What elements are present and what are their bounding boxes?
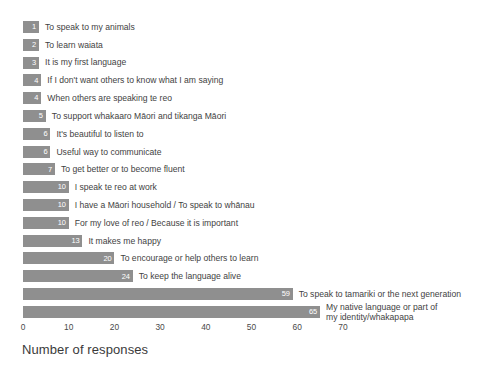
bar-value-label: 4 <box>34 77 38 85</box>
bar-row: 65My native language or part of my ident… <box>23 303 481 321</box>
bar-row: 24To keep the language alive <box>23 267 481 285</box>
x-axis-title: Number of responses <box>22 342 148 357</box>
x-axis-tick: 40 <box>201 322 210 332</box>
bar-row: 2To learn waiata <box>23 36 481 54</box>
bar-category-label: It is my first language <box>45 57 126 67</box>
bar-row: 20To encourage or help others to learn <box>23 250 481 268</box>
bar-value-label: 24 <box>122 273 130 281</box>
bar-row: 4When others are speaking te reo <box>23 89 481 107</box>
bar-row: 3It is my first language <box>23 54 481 72</box>
bar-category-label: To support whakaaro Māori and tikanga Mā… <box>52 111 226 121</box>
bar: 10 <box>23 199 69 211</box>
bar-value-label: 13 <box>71 237 79 245</box>
bar-value-label: 3 <box>32 59 36 67</box>
bar: 10 <box>23 217 69 229</box>
bar-value-label: 10 <box>58 183 66 191</box>
bar-value-label: 5 <box>39 112 43 120</box>
bar: 5 <box>23 110 46 122</box>
bar-row: 10I speak te reo at work <box>23 178 481 196</box>
x-axis-tick: 30 <box>155 322 164 332</box>
bar-value-label: 2 <box>32 41 36 49</box>
bar-category-label: To speak to tamariki or the next generat… <box>299 289 461 299</box>
bar-row: 5To support whakaaro Māori and tikanga M… <box>23 107 481 125</box>
bar-row: 10For my love of reo / Because it is imp… <box>23 214 481 232</box>
x-axis-tick: 20 <box>110 322 119 332</box>
bar-row: 13It makes me happy <box>23 232 481 250</box>
bar-value-label: 4 <box>34 94 38 102</box>
bar-value-label: 7 <box>48 166 52 174</box>
bar: 24 <box>23 270 133 282</box>
bar-row: 59To speak to tamariki or the next gener… <box>23 285 481 303</box>
bar-category-label: I have a Māori household / To speak to w… <box>75 200 255 210</box>
bar-value-label: 59 <box>282 290 290 298</box>
bar: 7 <box>23 163 55 175</box>
bar: 3 <box>23 57 39 69</box>
bar-category-label: Useful way to communicate <box>56 147 161 157</box>
bar: 4 <box>23 74 41 86</box>
x-axis-tick: 10 <box>64 322 73 332</box>
bar-category-label: It makes me happy <box>88 236 161 246</box>
bar-value-label: 6 <box>43 148 47 156</box>
bar: 13 <box>23 235 82 247</box>
bar-category-label: When others are speaking te reo <box>47 93 172 103</box>
bar-category-label: To keep the language alive <box>139 271 241 281</box>
bar: 4 <box>23 92 41 104</box>
x-axis-tick: 60 <box>293 322 302 332</box>
x-axis-tick: 70 <box>338 322 347 332</box>
bar-row: 1To speak to my animals <box>23 18 481 36</box>
bar-row: 4If I don't want others to know what I a… <box>23 71 481 89</box>
bar: 20 <box>23 252 114 264</box>
bar: 65 <box>23 306 320 318</box>
bar: 6 <box>23 146 50 158</box>
bar-category-label: I speak te reo at work <box>75 182 157 192</box>
bar: 1 <box>23 21 39 33</box>
bar-category-label: For my love of reo / Because it is impor… <box>75 218 238 228</box>
bar-category-label: If I don't want others to know what I am… <box>47 75 223 85</box>
bar: 59 <box>23 288 293 300</box>
bar-category-label: To encourage or help others to learn <box>120 253 258 263</box>
bar-category-label: To learn waiata <box>45 40 103 50</box>
x-axis: 010203040506070 <box>23 322 481 338</box>
bar: 6 <box>23 128 50 140</box>
bar-value-label: 10 <box>58 201 66 209</box>
bar-row: 7To get better or to become fluent <box>23 161 481 179</box>
x-axis-tick: 0 <box>21 322 26 332</box>
bar-row: 6Useful way to communicate <box>23 143 481 161</box>
bar-category-label: To speak to my animals <box>45 22 135 32</box>
plot-area: 1To speak to my animals2To learn waiata3… <box>23 18 481 321</box>
bar-value-label: 10 <box>58 219 66 227</box>
bar: 10 <box>23 181 69 193</box>
bar: 2 <box>23 39 39 51</box>
x-axis-tick: 50 <box>247 322 256 332</box>
bar-value-label: 6 <box>43 130 47 138</box>
bar-value-label: 20 <box>103 255 111 263</box>
bar-value-label: 1 <box>32 23 36 31</box>
bar-category-label: To get better or to become fluent <box>61 164 185 174</box>
bar-chart: 1To speak to my animals2To learn waiata3… <box>0 0 485 374</box>
bar-row: 10I have a Māori household / To speak to… <box>23 196 481 214</box>
bar-category-label: My native language or part of my identit… <box>326 302 437 322</box>
bar-category-label: It's beautiful to listen to <box>56 129 143 139</box>
bar-value-label: 65 <box>309 308 317 316</box>
bar-row: 6It's beautiful to listen to <box>23 125 481 143</box>
